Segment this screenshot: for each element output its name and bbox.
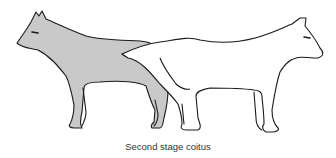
diagram-figure: Second stage coitus — [0, 0, 336, 158]
figure-caption: Second stage coitus — [0, 141, 336, 152]
left-dog — [17, 11, 168, 128]
right-dog — [122, 18, 323, 132]
dogs-illustration — [0, 0, 336, 158]
